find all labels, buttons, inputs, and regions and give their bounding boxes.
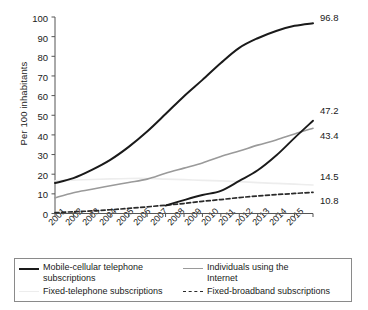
legend-label-fixed-telephone: Fixed-telephone subscriptions xyxy=(43,286,163,297)
legend-swatch-dashed-dark-icon xyxy=(183,287,203,297)
y-tick-marks xyxy=(52,17,56,214)
legend-label-internet: Individuals using theInternet xyxy=(207,262,289,283)
series-line-internet xyxy=(55,128,313,198)
legend-label-line1: Mobile-cellular telephone xyxy=(43,262,143,272)
legend-label-line2: Internet xyxy=(207,273,238,283)
legend: Mobile-cellular telephonesubscriptions I… xyxy=(14,258,352,302)
legend-item-fixed-broadband: Fixed-broadband subscriptions xyxy=(183,285,347,297)
legend-label-line1: Individuals using the xyxy=(207,262,289,272)
legend-swatch-solid-gray-icon xyxy=(183,264,203,274)
legend-item-mobile-cellular: Mobile-cellular telephonesubscriptions xyxy=(19,262,183,283)
series-line-fixed-broadband xyxy=(55,192,313,212)
legend-swatch-solid-dark-icon xyxy=(19,264,39,274)
legend-label-mobile-cellular: Mobile-cellular telephonesubscriptions xyxy=(43,262,143,283)
legend-label-line2: subscriptions xyxy=(43,273,96,283)
series-line-mobile-broadband xyxy=(166,121,313,206)
chart-container: Per 100 inhabitants 100 90 80 70 60 50 4… xyxy=(0,0,368,310)
legend-item-internet: Individuals using theInternet xyxy=(183,262,347,283)
legend-swatch-solid-light-icon xyxy=(19,287,39,297)
legend-label-fixed-broadband: Fixed-broadband subscriptions xyxy=(207,286,330,297)
series-line-fixed-telephone xyxy=(55,178,313,185)
x-tick-marks xyxy=(55,214,313,218)
series-line-mobile-cellular xyxy=(55,23,313,183)
legend-item-fixed-telephone: Fixed-telephone subscriptions xyxy=(19,285,183,297)
